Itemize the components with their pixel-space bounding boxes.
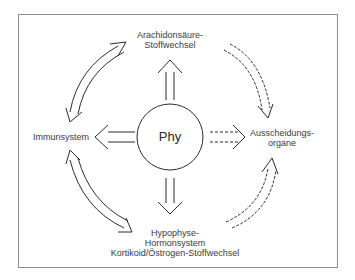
arc-top-right-dashed-icon [224, 44, 270, 110]
node-bottom-line2: Hormonsystem [105, 238, 245, 248]
node-top-line1: Arachidonsäure- [120, 30, 220, 40]
center-label: Phy [150, 129, 190, 144]
node-right-line1: Ausscheidungs- [246, 128, 318, 138]
arrow-right-dashed-icon [210, 125, 245, 149]
node-bottom-line3: Kortikoid/Östrogen-Stoffwechsel [105, 248, 245, 258]
node-bottom-line1: Hypophyse- [105, 228, 245, 238]
arrow-up-icon [158, 60, 182, 100]
node-right-line2: organe [246, 138, 318, 148]
node-left: Immunsystem [30, 132, 92, 142]
node-top-line2: Stoffwechsel [120, 40, 220, 50]
node-bottom: Hypophyse- Hormonsystem Kortikoid/Östrog… [105, 228, 245, 258]
node-left-line1: Immunsystem [30, 132, 92, 142]
arrow-left-icon [95, 125, 135, 149]
arrow-down-icon [158, 178, 182, 214]
node-top: Arachidonsäure- Stoffwechsel [120, 30, 220, 50]
arc-top-right-arrowhead-icon [258, 104, 273, 118]
arc-top-left-icon [66, 42, 126, 122]
arc-bottom-right-dashed-icon [226, 168, 276, 228]
arc-bottom-left-icon [66, 150, 132, 232]
node-right: Ausscheidungs- organe [246, 128, 318, 148]
